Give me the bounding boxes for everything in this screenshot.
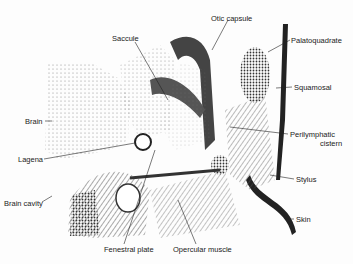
opercular-muscle-shape	[150, 170, 240, 238]
label-opercular-muscle: Opercular muscle	[173, 246, 232, 254]
label-palatoquadrate: Palatoquadrate	[291, 37, 342, 45]
palatoquadrate-shape	[240, 47, 270, 103]
brain-region	[45, 62, 130, 160]
label-perilymphatic: Perilymphatic	[290, 131, 335, 139]
label-squamosal: Squamosal	[294, 84, 332, 92]
label-otic-capsule: Otic capsule	[211, 15, 252, 23]
anatomical-figure: Saccule Otic capsule Palatoquadrate Squa…	[0, 0, 353, 264]
label-cistern: cistern	[320, 140, 342, 148]
label-saccule: Saccule	[112, 35, 139, 43]
label-brain-cavity: Brain cavity	[4, 200, 43, 208]
label-brain: Brain	[25, 118, 43, 126]
label-stylus: Stylus	[296, 176, 316, 184]
label-lagena: Lagena	[18, 156, 43, 164]
label-fenestral-plate: Fenestral plate	[104, 246, 154, 254]
label-skin: Skin	[296, 216, 311, 224]
